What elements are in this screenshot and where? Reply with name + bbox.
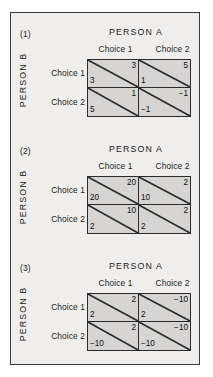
payoff-person-b: 20: [90, 194, 99, 202]
payoff-person-a: 3: [131, 62, 136, 70]
row-header-choice-1: Choice 1: [51, 293, 85, 322]
panel-number: (3): [20, 263, 31, 273]
row-party-label: PERSON B: [18, 286, 28, 342]
row-party-label: PERSON B: [18, 52, 28, 108]
payoff-person-b: 2: [141, 311, 146, 319]
payoff-person-b: 2: [141, 223, 146, 231]
payoff-person-a: 2: [131, 296, 136, 304]
payoff-matrix: 2 2 −10 2 2 −10 −10 −10: [87, 293, 191, 351]
payoff-person-b: −1: [141, 106, 150, 114]
payoff-person-a: 20: [127, 179, 136, 187]
payoff-person-b: 2: [90, 223, 95, 231]
payoff-matrices-figure: (1) PERSON A Choice 1 Choice 2 PERSON B …: [10, 12, 200, 365]
matrix-cell: 5 1: [139, 60, 190, 88]
panel-number: (1): [20, 29, 31, 39]
column-header-choice-1: Choice 1: [87, 161, 144, 171]
matrix-cell: 2 −10: [88, 322, 139, 350]
payoff-person-a: 2: [183, 207, 188, 215]
matrix-cell: 2 2: [139, 205, 190, 233]
row-header-choice-2: Choice 2: [51, 88, 85, 117]
column-party-label: PERSON A: [71, 144, 201, 154]
payoff-person-b: 1: [141, 77, 146, 85]
payoff-person-b: −10: [90, 340, 104, 348]
matrix-cell: 1 5: [88, 88, 139, 116]
row-party-label: PERSON B: [18, 169, 28, 225]
matrix-cell: −10 2: [139, 294, 190, 322]
payoff-person-a: 2: [131, 324, 136, 332]
payoff-person-b: 3: [90, 77, 95, 85]
row-headers: Choice 1 Choice 2: [35, 59, 87, 117]
row-header-choice-1: Choice 1: [51, 176, 85, 205]
row-header-choice-2: Choice 2: [51, 322, 85, 351]
payoff-person-b: 5: [90, 106, 95, 114]
column-party-label: PERSON A: [71, 261, 201, 271]
payoff-person-b: 10: [141, 194, 150, 202]
row-headers: Choice 1 Choice 2: [35, 176, 87, 234]
payoff-person-a: 5: [183, 62, 188, 70]
matrix-cell: 10 2: [88, 205, 139, 233]
column-header-choice-2: Choice 2: [144, 278, 201, 288]
payoff-person-a: −1: [179, 90, 188, 98]
payoff-person-a: −10: [174, 324, 188, 332]
matrix-cell: 3 3: [88, 60, 139, 88]
panel-number: (2): [20, 146, 31, 156]
column-header-choice-2: Choice 2: [144, 161, 201, 171]
column-party-label: PERSON A: [71, 27, 201, 37]
column-headers: Choice 1 Choice 2: [87, 161, 201, 171]
matrix-cell: −1 −1: [139, 88, 190, 116]
row-header-choice-1: Choice 1: [51, 59, 85, 88]
payoff-matrix: 20 20 2 10 10 2 2 2: [87, 176, 191, 234]
payoff-matrix: 3 3 5 1 1 5 −1 −1: [87, 59, 191, 117]
column-headers: Choice 1 Choice 2: [87, 278, 201, 288]
payoff-matrix-panel-1: (1) PERSON A Choice 1 Choice 2 PERSON B …: [11, 13, 199, 130]
matrix-cell: 2 10: [139, 177, 190, 205]
diagonal-divider-icon: [139, 205, 190, 233]
payoff-person-a: 1: [131, 90, 136, 98]
payoff-person-a: 2: [183, 179, 188, 187]
row-headers: Choice 1 Choice 2: [35, 293, 87, 351]
payoff-person-b: −10: [141, 340, 155, 348]
column-header-choice-1: Choice 1: [87, 278, 144, 288]
payoff-matrix-panel-3: (3) PERSON A Choice 1 Choice 2 PERSON B …: [11, 247, 199, 364]
column-header-choice-1: Choice 1: [87, 44, 144, 54]
row-header-choice-2: Choice 2: [51, 205, 85, 234]
diagonal-divider-icon: [139, 60, 190, 87]
column-header-choice-2: Choice 2: [144, 44, 201, 54]
column-headers: Choice 1 Choice 2: [87, 44, 201, 54]
payoff-person-a: −10: [174, 296, 188, 304]
payoff-person-b: 2: [90, 311, 95, 319]
payoff-matrix-panel-2: (2) PERSON A Choice 1 Choice 2 PERSON B …: [11, 130, 199, 247]
matrix-cell: 2 2: [88, 294, 139, 322]
payoff-person-a: 10: [127, 207, 136, 215]
matrix-cell: 20 20: [88, 177, 139, 205]
matrix-cell: −10 −10: [139, 322, 190, 350]
